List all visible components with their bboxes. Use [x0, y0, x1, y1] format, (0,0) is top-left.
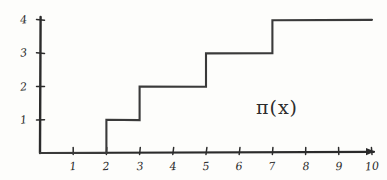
step-function-plot — [0, 0, 387, 180]
x-tick-label-8: 8 — [302, 161, 310, 172]
pi-step-curve — [40, 20, 372, 153]
x-tick-mark — [272, 148, 273, 155]
x-tick-mark — [239, 148, 240, 155]
y-tick-mark — [37, 53, 45, 54]
x-tick-mark — [140, 148, 141, 155]
y-tick-label-4: 4 — [19, 14, 27, 26]
y-tick-label-3: 3 — [19, 48, 27, 60]
x-tick-label-9: 9 — [335, 161, 343, 172]
x-tick-label-5: 5 — [202, 161, 210, 172]
x-axis-arrowhead — [366, 148, 375, 155]
figure-canvas: 12345678910 1234 π(x) — [0, 0, 387, 180]
x-tick-label-7: 7 — [269, 161, 277, 172]
y-tick-mark — [37, 19, 45, 20]
x-tick-mark — [371, 148, 372, 155]
x-tick-label-10: 10 — [365, 161, 380, 173]
x-tick-label-6: 6 — [235, 161, 243, 172]
x-tick-mark — [173, 148, 174, 155]
x-tick-label-2: 2 — [103, 161, 111, 172]
x-tick-label-4: 4 — [169, 161, 177, 172]
pi-of-x-label: π(x) — [256, 96, 298, 118]
y-tick-label-1: 1 — [19, 114, 27, 126]
x-tick-mark — [206, 148, 207, 155]
x-tick-label-1: 1 — [69, 161, 77, 172]
step-curve-group — [40, 20, 372, 153]
y-axis-line — [40, 17, 41, 153]
x-tick-label-3: 3 — [136, 161, 144, 172]
y-tick-label-2: 2 — [19, 81, 27, 93]
